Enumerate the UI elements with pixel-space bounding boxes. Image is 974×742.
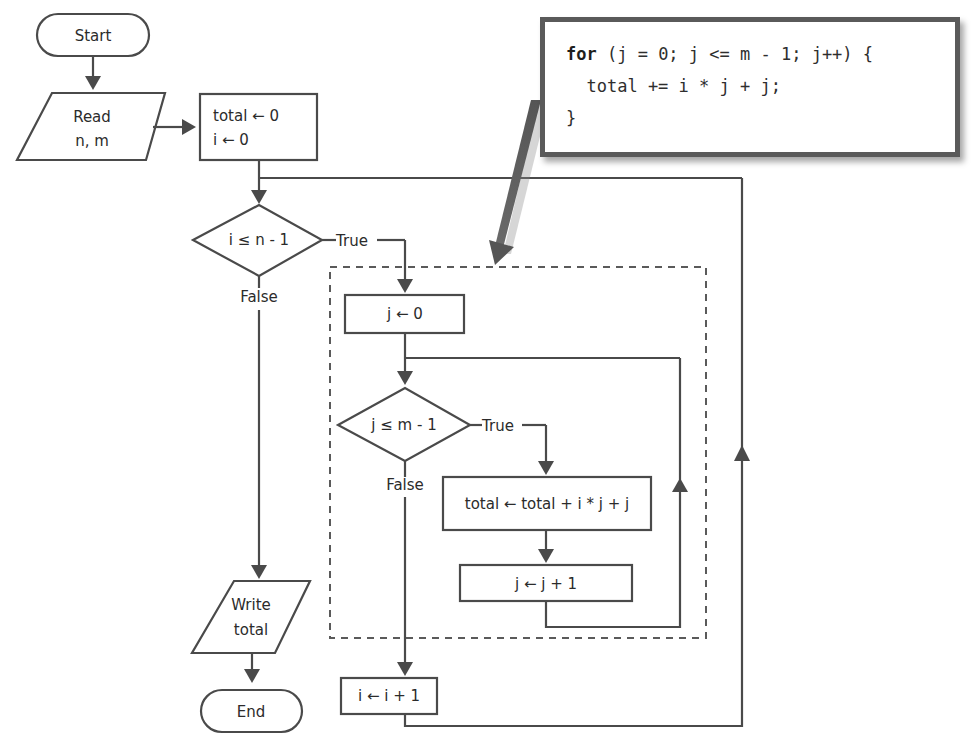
code-line-2: total += i * j + j; <box>566 76 781 96</box>
init-label-line2: i ← 0 <box>213 131 249 149</box>
j-inc-label: j ← j + 1 <box>514 575 577 593</box>
read-label-line1: Read <box>73 108 111 126</box>
code-callout-box: for (j = 0; j <= m - 1; j++) { total += … <box>540 17 960 157</box>
write-label-line1: Write <box>231 596 271 614</box>
start-label: Start <box>75 27 112 45</box>
code-line-3: } <box>566 108 576 128</box>
inner-true-label: True <box>481 417 514 435</box>
inner-false-label: False <box>386 476 424 494</box>
j-init-label: j ← 0 <box>386 305 423 323</box>
inner-cond-label: j ≤ m - 1 <box>370 416 436 434</box>
outer-true-label: True <box>335 232 368 250</box>
code-keyword-for: for <box>566 44 597 64</box>
init-label-line1: total ← 0 <box>213 107 279 125</box>
outer-false-label: False <box>240 288 278 306</box>
write-io <box>192 581 310 653</box>
end-label: End <box>237 703 266 721</box>
outer-cond-label: i ≤ n - 1 <box>229 231 289 249</box>
code-line-1-rest: (j = 0; j <= m - 1; j++) { <box>597 44 873 64</box>
i-inc-label: i ← i + 1 <box>358 687 420 705</box>
read-label-line2: n, m <box>75 132 109 150</box>
code-line-1: for (j = 0; j <= m - 1; j++) { <box>566 44 873 64</box>
write-label-line2: total <box>234 621 268 639</box>
body-label: total ← total + i * j + j <box>465 495 629 513</box>
init-process <box>200 94 317 160</box>
